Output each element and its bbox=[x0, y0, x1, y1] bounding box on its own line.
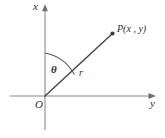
origin-label: O bbox=[35, 99, 43, 110]
vertical-axis-label: x bbox=[33, 1, 38, 12]
angle-arc bbox=[45, 53, 74, 75]
vertical-axis-arrowhead-icon bbox=[42, 4, 48, 11]
angle-theta-label: θ bbox=[51, 64, 57, 75]
point-p-label: P(x , y) bbox=[117, 24, 146, 34]
radius-r-label: r bbox=[79, 68, 83, 78]
point-p-marker bbox=[110, 31, 114, 35]
horizontal-axis-label: y bbox=[150, 98, 155, 109]
polar-coordinate-diagram: x y O θ r P(x , y) bbox=[0, 0, 165, 138]
